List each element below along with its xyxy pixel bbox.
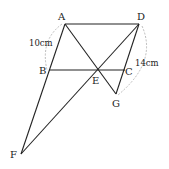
label-e: E (92, 75, 99, 86)
measure-ab: 10cm (29, 38, 53, 48)
label-f: F (10, 149, 17, 160)
measure-dg: 14cm (135, 58, 159, 68)
segment-ag (65, 24, 116, 94)
geometry-diagram: A D B C E G F 10cm 14cm (0, 0, 169, 169)
label-d: D (137, 11, 145, 22)
label-b: B (39, 65, 46, 76)
label-c: C (125, 66, 133, 77)
label-a: A (57, 11, 66, 22)
label-g: G (112, 98, 120, 109)
